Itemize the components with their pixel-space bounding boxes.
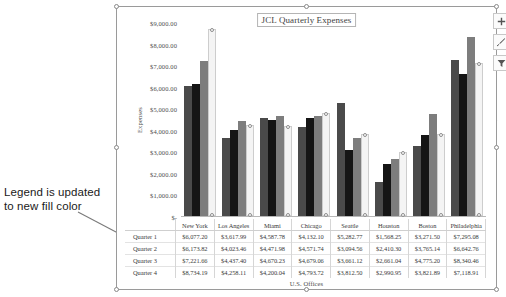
bar-1[interactable]: [451, 60, 459, 216]
table-cell: $3,821.89: [408, 267, 447, 279]
bar-4[interactable]: [208, 29, 216, 216]
table-cell: $8,734.19: [176, 267, 215, 279]
resize-handle-top-center[interactable]: [304, 4, 309, 9]
resize-handle-bottom-center[interactable]: [304, 287, 309, 292]
chart-object[interactable]: JCL Quarterly Expenses Expenses $9,000.0…: [116, 6, 497, 290]
table-cell: $3,812.50: [331, 267, 370, 279]
table-column-header: Boston: [408, 219, 447, 231]
bar-4[interactable]: [246, 125, 254, 216]
table-cell: $2,661.04: [369, 255, 408, 267]
legend-entry[interactable]: Quarter 3: [125, 255, 176, 267]
bar-4[interactable]: [284, 126, 292, 216]
bar-2[interactable]: [345, 150, 353, 216]
table-cell: $2,990.95: [369, 267, 408, 279]
y-axis-tick-label: $8,000.00: [150, 41, 177, 48]
bar-3[interactable]: [429, 114, 437, 216]
y-axis-tick-label: $3,000.00: [150, 149, 177, 156]
legend-label: Quarter 4: [133, 269, 157, 276]
bar-4[interactable]: [361, 134, 369, 216]
chart-tools: [493, 13, 506, 76]
y-axis-tick-label: $5,000.00: [150, 106, 177, 113]
table-cell: $3,271.50: [408, 231, 447, 243]
data-table[interactable]: New YorkLos AngelesMiamiChicagoSeattleHo…: [125, 219, 486, 275]
table-cell: $4,587.78: [253, 231, 292, 243]
bar-1[interactable]: [413, 146, 421, 216]
legend-key-icon: [127, 259, 131, 263]
table-cell: $3,094.56: [331, 243, 370, 255]
table-cell: $3,765.14: [408, 243, 447, 255]
table-cell: $5,282.77: [331, 231, 370, 243]
bar-group: [410, 23, 448, 216]
table-cell: $4,132.10: [292, 231, 331, 243]
table-cell: $6,642.76: [447, 243, 486, 255]
bar-3[interactable]: [238, 121, 246, 216]
table-cell: $7,221.66: [176, 255, 215, 267]
table-column-header: New York: [176, 219, 215, 231]
resize-handle-top-left[interactable]: [114, 4, 119, 9]
annotation-text: Legend is updated to new fill color: [4, 186, 112, 213]
resize-handle-middle-left[interactable]: [114, 145, 119, 150]
bar-1[interactable]: [337, 103, 345, 216]
resize-handle-bottom-right[interactable]: [494, 287, 499, 292]
resize-handle-bottom-left[interactable]: [114, 287, 119, 292]
resize-handle-middle-right[interactable]: [494, 145, 499, 150]
bar-group: [334, 23, 372, 216]
bar-1[interactable]: [222, 138, 230, 216]
x-axis-title[interactable]: U.S. Offices: [117, 280, 496, 287]
bar-4[interactable]: [475, 63, 483, 216]
bar-3[interactable]: [314, 116, 322, 216]
bar-1[interactable]: [184, 86, 192, 216]
legend-entry[interactable]: Quarter 1: [125, 231, 176, 243]
bar-3[interactable]: [276, 116, 284, 216]
bar-2[interactable]: [459, 74, 467, 216]
table-cell: $4,775.20: [408, 255, 447, 267]
table-cell: $3,617.99: [214, 231, 253, 243]
legend-entry[interactable]: Quarter 4: [125, 267, 176, 279]
table-row: Quarter 4$8,734.19$4,258.11$4,200.04$4,7…: [125, 267, 486, 279]
bar-2[interactable]: [421, 135, 429, 216]
bar-3[interactable]: [467, 37, 475, 216]
legend-key-icon: [127, 235, 131, 239]
y-axis-tick-label: $7,000.00: [150, 63, 177, 70]
y-axis-tick-label: $6,000.00: [150, 84, 177, 91]
bar-group: [372, 23, 410, 216]
bar-3[interactable]: [391, 159, 399, 216]
table-cell: $4,437.40: [214, 255, 253, 267]
table-corner-cell: [125, 219, 176, 231]
table-cell: $4,471.98: [253, 243, 292, 255]
table-cell: $4,571.74: [292, 243, 331, 255]
plot-area: Expenses $9,000.00$8,000.00$7,000.00$6,0…: [125, 23, 486, 217]
bar-group: [181, 23, 219, 216]
bar-4[interactable]: [322, 113, 330, 216]
bar-2[interactable]: [383, 164, 391, 216]
bar-1[interactable]: [375, 182, 383, 216]
bar-2[interactable]: [268, 120, 276, 216]
table-column-header: Seattle: [331, 219, 370, 231]
chart-filters-button[interactable]: [493, 55, 506, 71]
table-row: Quarter 2$6,173.82$4,023.46$4,471.98$4,5…: [125, 243, 486, 255]
legend-key-icon: [127, 271, 131, 275]
table-cell: $6,173.82: [176, 243, 215, 255]
table-cell: $2,410.30: [369, 243, 408, 255]
table-cell: $4,679.06: [292, 255, 331, 267]
bar-2[interactable]: [192, 84, 200, 216]
bar-3[interactable]: [353, 138, 361, 217]
bar-2[interactable]: [306, 118, 314, 216]
bar-1[interactable]: [298, 127, 306, 216]
bar-1[interactable]: [260, 118, 268, 216]
bar-2[interactable]: [230, 130, 238, 216]
table-cell: $4,023.46: [214, 243, 253, 255]
y-axis-tick-label: $1,000.00: [150, 192, 177, 199]
bar-4[interactable]: [437, 134, 445, 216]
bar-3[interactable]: [200, 61, 208, 216]
legend-entry[interactable]: Quarter 2: [125, 243, 176, 255]
bars-container: [181, 23, 486, 217]
table-column-header: Los Angeles: [214, 219, 253, 231]
bar-4[interactable]: [399, 152, 407, 216]
legend-label: Quarter 1: [133, 233, 157, 240]
resize-handle-top-right[interactable]: [494, 4, 499, 9]
table-column-header: Miami: [253, 219, 292, 231]
table-header-row: New YorkLos AngelesMiamiChicagoSeattleHo…: [125, 219, 486, 231]
chart-styles-button[interactable]: [493, 34, 506, 50]
chart-elements-button[interactable]: [493, 13, 506, 29]
